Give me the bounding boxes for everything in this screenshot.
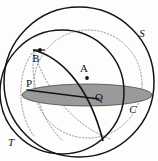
label-point-c: C: [129, 103, 137, 115]
figure-canvas: S T B A P Q C: [0, 0, 158, 161]
label-point-a: A: [80, 62, 88, 74]
label-sphere-t: T: [8, 136, 15, 148]
label-sphere-s: S: [139, 27, 145, 39]
point-a-dot: [85, 76, 89, 80]
label-point-q: Q: [95, 91, 103, 103]
geometry-figure: S T B A P Q C: [0, 0, 158, 161]
label-point-p: P: [26, 77, 32, 89]
label-point-b: B: [32, 52, 39, 64]
